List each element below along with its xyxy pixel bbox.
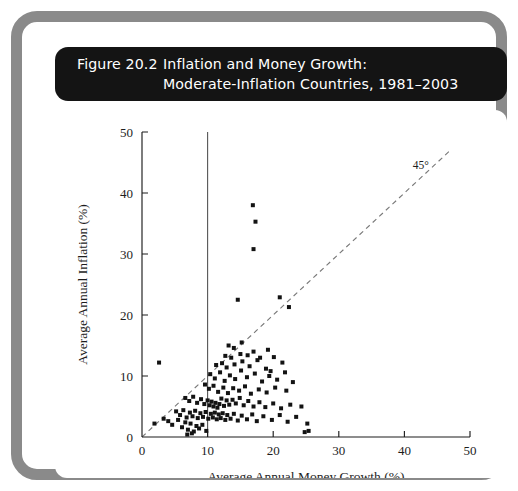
x-tick-label: 50 bbox=[464, 443, 477, 458]
data-point bbox=[183, 396, 187, 400]
data-point bbox=[288, 403, 292, 407]
data-point bbox=[284, 389, 288, 393]
data-point bbox=[213, 411, 217, 415]
data-point bbox=[229, 417, 233, 421]
data-point bbox=[225, 365, 229, 369]
data-point bbox=[251, 203, 255, 207]
x-tick-label: 30 bbox=[332, 443, 345, 458]
data-point bbox=[236, 298, 240, 302]
data-point bbox=[152, 422, 156, 426]
data-point bbox=[223, 418, 227, 422]
scatter-chart: 01020304050 01020304050 45° Average Annu… bbox=[55, 110, 507, 478]
data-point bbox=[286, 420, 290, 424]
data-point bbox=[210, 400, 214, 404]
data-point bbox=[208, 403, 212, 407]
data-point bbox=[185, 433, 189, 437]
data-point bbox=[234, 401, 238, 405]
data-point bbox=[291, 380, 295, 384]
data-point bbox=[248, 364, 252, 368]
data-point bbox=[240, 340, 244, 344]
data-point bbox=[261, 414, 265, 418]
data-point bbox=[219, 416, 223, 420]
data-point bbox=[185, 415, 189, 419]
data-point bbox=[270, 418, 274, 422]
data-point bbox=[176, 418, 180, 422]
data-point bbox=[204, 429, 208, 433]
data-point bbox=[255, 358, 259, 362]
data-point bbox=[198, 411, 202, 415]
data-point bbox=[208, 372, 212, 376]
data-point bbox=[202, 402, 206, 406]
data-point bbox=[250, 412, 254, 416]
data-point bbox=[267, 374, 271, 378]
figure-title-first-line: Inflation and Money Growth: bbox=[163, 54, 367, 74]
data-point bbox=[278, 413, 282, 417]
x-tick-label: 10 bbox=[201, 443, 214, 458]
data-point bbox=[215, 406, 219, 410]
data-point bbox=[215, 417, 219, 421]
data-point bbox=[280, 361, 284, 365]
forty-five-degree-line-group bbox=[142, 150, 450, 437]
data-point bbox=[240, 359, 244, 363]
data-point bbox=[307, 429, 311, 433]
figure-frame: Figure 20.2 Inflation and Money Growth: … bbox=[11, 11, 507, 480]
data-point bbox=[253, 220, 257, 224]
data-point bbox=[186, 428, 190, 432]
data-point bbox=[212, 405, 216, 409]
data-point bbox=[222, 404, 226, 408]
data-point bbox=[240, 414, 244, 418]
data-point bbox=[225, 398, 229, 402]
data-point bbox=[278, 295, 282, 299]
data-point bbox=[242, 403, 246, 407]
data-point bbox=[228, 373, 232, 377]
data-point bbox=[238, 352, 242, 356]
data-point bbox=[260, 379, 264, 383]
data-point bbox=[233, 362, 237, 366]
data-point bbox=[216, 390, 220, 394]
data-point bbox=[207, 387, 211, 391]
figure-title-bar: Figure 20.2 Inflation and Money Growth: … bbox=[55, 47, 507, 101]
data-point bbox=[196, 416, 200, 420]
data-point bbox=[180, 425, 184, 429]
y-tick-label: 0 bbox=[127, 430, 134, 445]
data-point bbox=[219, 397, 223, 401]
data-point bbox=[283, 370, 287, 374]
y-tick-label: 30 bbox=[120, 247, 133, 262]
data-point bbox=[239, 369, 243, 373]
data-point bbox=[170, 423, 174, 427]
data-point bbox=[201, 415, 205, 419]
data-point bbox=[269, 369, 273, 373]
data-point bbox=[271, 401, 275, 405]
data-point bbox=[178, 413, 182, 417]
data-point bbox=[200, 423, 204, 427]
data-point bbox=[162, 417, 166, 421]
data-point bbox=[236, 419, 240, 423]
data-point bbox=[174, 409, 178, 413]
figure-title-second-line: Moderate-Inflation Countries, 1981–2003 bbox=[163, 74, 507, 94]
data-point bbox=[273, 386, 277, 390]
data-point bbox=[218, 370, 222, 374]
data-point bbox=[303, 430, 307, 434]
data-point bbox=[275, 378, 279, 382]
data-point bbox=[212, 384, 216, 388]
data-point bbox=[199, 397, 203, 401]
data-point bbox=[221, 386, 225, 390]
forty-five-degree-line bbox=[142, 150, 450, 437]
data-point bbox=[190, 431, 194, 435]
data-points-group bbox=[152, 203, 310, 436]
forty-five-degree-label: 45° bbox=[413, 159, 430, 171]
x-tick-label: 20 bbox=[267, 443, 280, 458]
data-point bbox=[272, 355, 276, 359]
data-point bbox=[189, 422, 193, 426]
data-point bbox=[279, 406, 283, 410]
data-point bbox=[195, 401, 199, 405]
data-point bbox=[257, 387, 261, 391]
figure-number-label: Figure 20.2 bbox=[77, 54, 163, 74]
data-point bbox=[206, 417, 210, 421]
data-point bbox=[213, 401, 217, 405]
annotations-group: 45° bbox=[413, 159, 430, 171]
data-point bbox=[294, 415, 298, 419]
y-tick-label: 50 bbox=[120, 125, 133, 140]
data-point bbox=[246, 353, 250, 357]
data-point bbox=[227, 344, 231, 348]
